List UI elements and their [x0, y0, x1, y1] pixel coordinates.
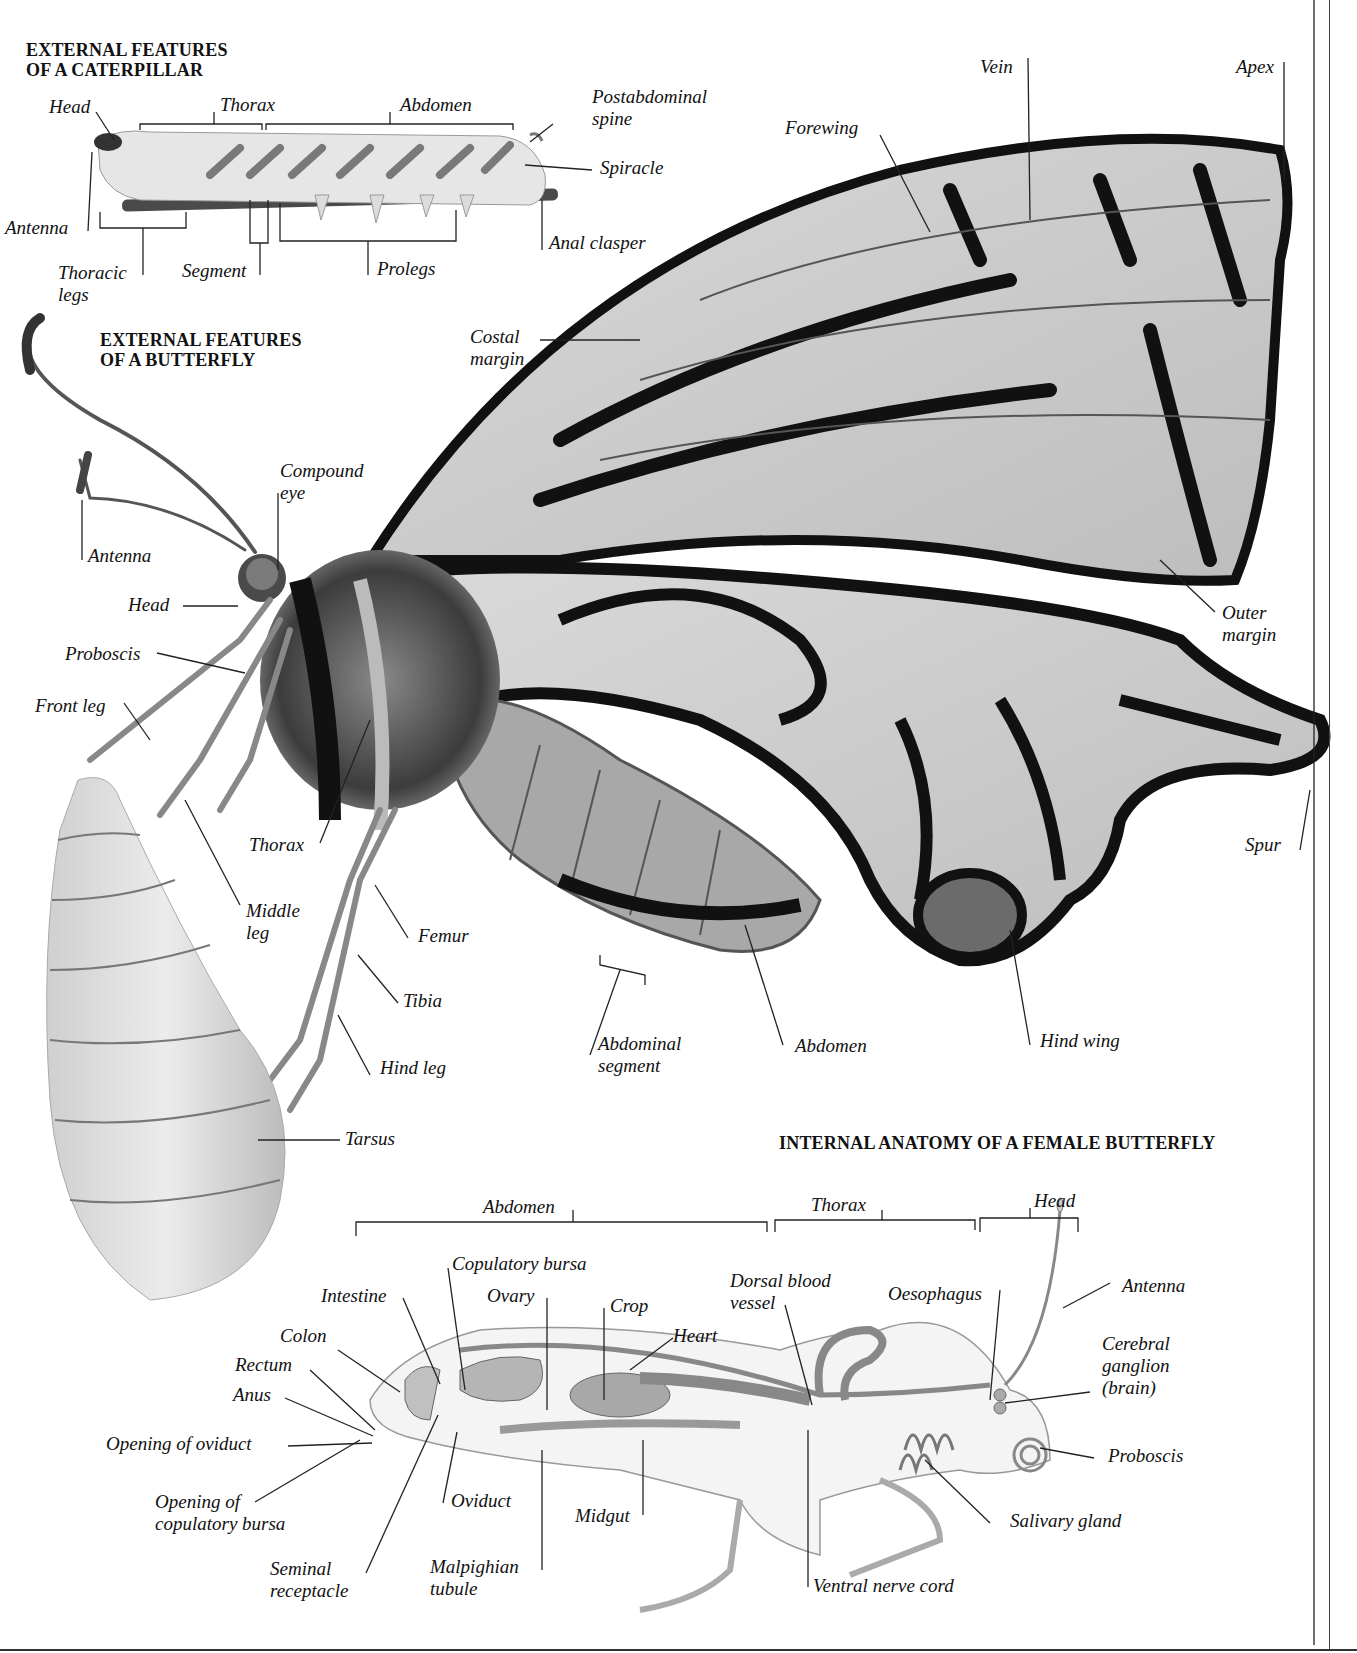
- butterfly-label-compound-eye: Compound eye: [280, 460, 363, 504]
- internal-anatomy-heading: INTERNAL ANATOMY OF A FEMALE BUTTERFLY: [779, 1133, 1216, 1153]
- caterpillar-label-segment: Segment: [182, 260, 246, 282]
- internal-label-abdomen: Abdomen: [483, 1196, 555, 1218]
- butterfly-anatomy-diagram: EXTERNAL FEATURES OF A CATERPILLAR EXTER…: [0, 0, 1357, 1653]
- internal-label-dorsal-blood-vessel: Dorsal blood vessel: [730, 1270, 831, 1314]
- butterfly-label-head: Head: [128, 594, 169, 616]
- caterpillar-label-spiracle: Spiracle: [600, 157, 663, 179]
- caterpillar-heading: EXTERNAL FEATURES OF A CATERPILLAR: [26, 40, 228, 80]
- internal-label-midgut: Midgut: [575, 1505, 630, 1527]
- butterfly-heading: EXTERNAL FEATURES OF A BUTTERFLY: [100, 330, 302, 370]
- frame-border-right: [1329, 0, 1330, 1649]
- internal-label-opening-of-oviduct: Opening of oviduct: [106, 1433, 252, 1455]
- caterpillar-label-postabdominal-spine: Postabdominal spine: [592, 86, 707, 130]
- internal-label-proboscis: Proboscis: [1108, 1445, 1183, 1467]
- internal-label-rectum: Rectum: [235, 1354, 292, 1376]
- internal-label-head: Head: [1034, 1190, 1075, 1212]
- butterfly-label-femur: Femur: [418, 925, 469, 947]
- caterpillar-illustration: [94, 131, 558, 223]
- internal-label-malpighian-tubule: Malpighian tubule: [430, 1556, 519, 1600]
- butterfly-label-thorax: Thorax: [249, 834, 304, 856]
- internal-label-opening-of-copulatory-bursa: Opening of copulatory bursa: [155, 1491, 285, 1535]
- internal-label-anus: Anus: [233, 1384, 271, 1406]
- internal-label-intestine: Intestine: [321, 1285, 386, 1307]
- butterfly-label-hind-leg: Hind leg: [380, 1057, 446, 1079]
- butterfly-label-spur: Spur: [1245, 834, 1281, 856]
- butterfly-label-proboscis: Proboscis: [65, 643, 140, 665]
- internal-label-salivary-gland: Salivary gland: [1010, 1510, 1121, 1532]
- butterfly-label-forewing: Forewing: [785, 117, 858, 139]
- butterfly-label-apex: Apex: [1236, 56, 1274, 78]
- butterfly-label-hind-wing: Hind wing: [1040, 1030, 1120, 1052]
- caterpillar-label-prolegs: Prolegs: [377, 258, 435, 280]
- caterpillar-label-thoracic-legs: Thoracic legs: [58, 262, 127, 306]
- butterfly-label-antenna: Antenna: [88, 545, 151, 567]
- butterfly-label-front-leg: Front leg: [35, 695, 106, 717]
- diagram-artwork: [0, 0, 1357, 1653]
- butterfly-label-tibia: Tibia: [403, 990, 442, 1012]
- internal-label-cerebral-ganglion: Cerebral ganglion (brain): [1102, 1333, 1170, 1399]
- internal-label-antenna: Antenna: [1122, 1275, 1185, 1297]
- caterpillar-label-abdomen: Abdomen: [400, 94, 472, 116]
- butterfly-label-costal-margin: Costal margin: [470, 326, 524, 370]
- internal-label-heart: Heart: [673, 1325, 717, 1347]
- internal-label-colon: Colon: [280, 1325, 326, 1347]
- internal-label-thorax: Thorax: [811, 1194, 866, 1216]
- internal-label-oesophagus: Oesophagus: [888, 1283, 982, 1305]
- frame-border-bottom: [0, 1649, 1357, 1651]
- internal-label-ventral-nerve-cord: Ventral nerve cord: [813, 1575, 954, 1597]
- butterfly-label-tarsus: Tarsus: [345, 1128, 395, 1150]
- butterfly-label-abdominal-segment: Abdominal segment: [598, 1033, 681, 1077]
- butterfly-label-middle-leg: Middle leg: [246, 900, 300, 944]
- caterpillar-label-head: Head: [49, 96, 90, 118]
- butterfly-label-outer-margin: Outer margin: [1222, 602, 1276, 646]
- caterpillar-label-antenna: Antenna: [5, 217, 68, 239]
- caterpillar-label-anal-clasper: Anal clasper: [549, 232, 646, 254]
- caterpillar-label-thorax: Thorax: [220, 94, 275, 116]
- internal-label-copulatory-bursa: Copulatory bursa: [452, 1253, 587, 1275]
- butterfly-label-vein: Vein: [980, 56, 1013, 78]
- internal-label-seminal-receptacle: Seminal receptacle: [270, 1558, 348, 1602]
- butterfly-label-abdomen: Abdomen: [795, 1035, 867, 1057]
- internal-label-crop: Crop: [610, 1295, 648, 1317]
- internal-label-ovary: Ovary: [487, 1285, 534, 1307]
- internal-label-oviduct: Oviduct: [451, 1490, 511, 1512]
